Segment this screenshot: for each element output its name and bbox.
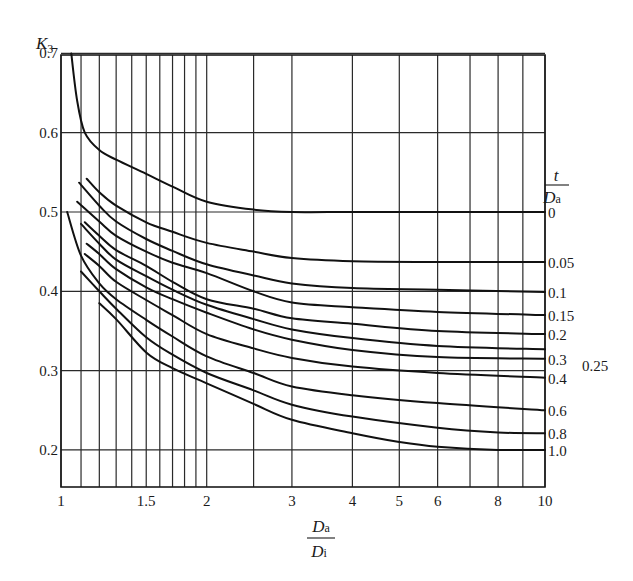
x-tick-labels: 11.523456810	[57, 493, 552, 509]
curve-label: 0	[548, 205, 556, 221]
curves	[67, 53, 545, 450]
curve-t-da-0-1	[79, 183, 545, 292]
x-tick-label: 8	[494, 493, 502, 509]
curve-label: 0.8	[548, 426, 567, 442]
k3-chart: 11.523456810 0.20.30.40.50.60.7 00.050.1…	[0, 0, 633, 581]
curve-t-da-0-05	[87, 179, 545, 262]
curve-label: 0.3	[548, 352, 567, 368]
x-tick-label: 10	[538, 493, 553, 509]
curve-label: 0.6	[548, 403, 567, 419]
x-tick-label: 4	[349, 493, 357, 509]
svg-text:Da: Da	[542, 188, 561, 207]
x-tick-label: 3	[288, 493, 296, 509]
svg-text:Di: Di	[310, 542, 327, 561]
y-tick-label: 0.5	[39, 204, 58, 220]
curve-label: 0.1	[548, 285, 567, 301]
curve-t-da-0-3	[87, 244, 545, 359]
svg-text:Da: Da	[311, 517, 330, 536]
curve-label: 0.25	[582, 358, 608, 374]
curve-t-da-0-15	[77, 202, 545, 315]
curve-label: 0.05	[548, 255, 574, 271]
curve-label: 1.0	[548, 443, 567, 459]
x-tick-label: 1.5	[137, 493, 156, 509]
y-tick-labels: 0.20.30.40.50.60.7	[39, 45, 58, 458]
y-tick-label: 0.6	[39, 125, 58, 141]
legend-title: t Da	[542, 166, 569, 207]
curve-t-da-0-8	[81, 272, 545, 434]
curve-labels: 00.050.10.150.20.250.30.40.60.81.0	[548, 205, 608, 459]
x-tick-label: 6	[434, 493, 442, 509]
x-tick-label: 1	[57, 493, 65, 509]
x-tick-label: 5	[396, 493, 404, 509]
y-gridlines	[61, 53, 545, 450]
curve-label: 0.2	[548, 327, 567, 343]
curve-t-da-0-2	[85, 222, 545, 334]
y-axis-title: K3	[35, 34, 53, 56]
y-tick-label: 0.4	[39, 283, 58, 299]
curve-label: 0.15	[548, 308, 574, 324]
curve-t-da-0-6	[67, 212, 545, 410]
x-axis-title: Da Di	[307, 517, 335, 561]
y-tick-label: 0.3	[39, 363, 58, 379]
x-tick-label: 2	[203, 493, 211, 509]
curve-label: 0.4	[548, 371, 567, 387]
svg-text:t: t	[554, 166, 560, 185]
curve-t-da-1-0	[99, 303, 545, 450]
y-tick-label: 0.2	[39, 442, 58, 458]
